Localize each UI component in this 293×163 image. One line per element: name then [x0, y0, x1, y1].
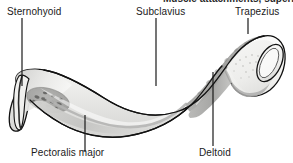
label-subclavius: Subclavius [136, 6, 185, 17]
label-deltoid: Deltoid [199, 147, 231, 158]
label-pectoralis-major: Pectoralis major [31, 147, 104, 158]
label-sternohyoid: Sternohyoid [7, 6, 61, 17]
clavicle-illustration [0, 0, 293, 163]
label-trapezius: Trapezius [235, 6, 279, 17]
clavicle-diagram: Muscle attachments, superior surface [0, 0, 293, 163]
clavicle-body [9, 36, 288, 138]
